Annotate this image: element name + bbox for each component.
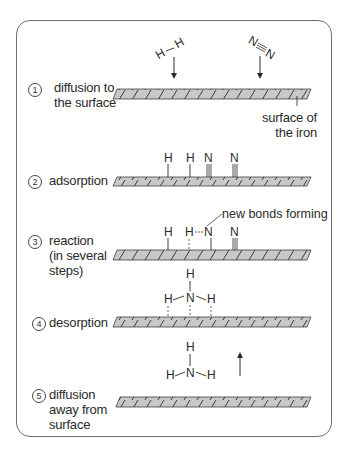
svg-text:H: H: [164, 151, 173, 165]
svg-text:H: H: [185, 225, 194, 239]
new-bonds-label: new bonds forming: [222, 207, 328, 221]
iron-surface-5: [116, 397, 311, 407]
adsorbed-atoms-step2: H H N N: [164, 151, 239, 177]
svg-text:H: H: [164, 225, 173, 239]
svg-text:N: N: [186, 366, 195, 380]
svg-text:H: H: [186, 267, 195, 281]
iron-surface-4: [113, 317, 311, 327]
svg-text:H: H: [172, 35, 187, 51]
svg-text:H: H: [207, 368, 216, 382]
svg-text:H: H: [166, 368, 175, 382]
ammonia-free: H N H H: [166, 340, 216, 382]
iron-surface-3: [113, 250, 311, 260]
svg-text:N: N: [204, 151, 213, 165]
svg-text:N: N: [204, 225, 213, 239]
reacting-atoms-step3: H H N N: [164, 225, 239, 250]
svg-text:H: H: [207, 292, 216, 306]
svg-text:N: N: [186, 291, 195, 305]
h2-molecule: H H: [153, 35, 187, 62]
svg-text:N: N: [263, 46, 278, 62]
svg-text:H: H: [153, 46, 168, 62]
svg-text:N: N: [246, 33, 261, 49]
svg-text:H: H: [164, 292, 173, 306]
diagram-graphics: H H N N H H N N new bonds forming H H: [0, 0, 346, 449]
iron-surface-1: [113, 89, 311, 99]
iron-surface-2: [113, 177, 311, 186]
n2-molecule: N N: [246, 33, 278, 62]
svg-text:N: N: [230, 151, 239, 165]
svg-text:N: N: [230, 225, 239, 239]
svg-text:H: H: [186, 340, 195, 354]
svg-text:H: H: [186, 151, 195, 165]
ammonia-desorbing: H N H H: [164, 267, 216, 316]
